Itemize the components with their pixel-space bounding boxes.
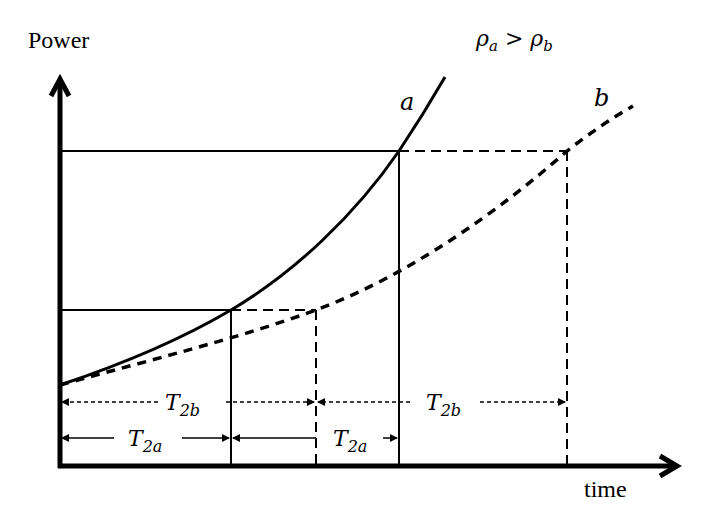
t2a-second-label: T2a bbox=[333, 426, 367, 456]
reference-lines bbox=[60, 151, 567, 466]
curve-a bbox=[60, 77, 445, 385]
doubling-time-diagram: Power time ρa>ρb a b T2b T2b T2a T2a bbox=[0, 0, 716, 519]
t2b-second-label: T2b bbox=[426, 390, 461, 420]
x-axis-label: time bbox=[584, 476, 627, 502]
t2a-intervals: T2a T2a bbox=[62, 426, 397, 456]
curve-b bbox=[60, 106, 633, 385]
axes bbox=[51, 79, 677, 476]
t2b-first-label: T2b bbox=[165, 390, 200, 420]
curve-b-label: b bbox=[594, 84, 609, 112]
condition-label: ρa>ρb bbox=[475, 26, 553, 55]
curve-a-label: a bbox=[400, 88, 414, 116]
t2b-intervals: T2b T2b bbox=[62, 390, 565, 420]
y-axis-label: Power bbox=[28, 27, 89, 53]
t2a-first-label: T2a bbox=[128, 426, 162, 456]
